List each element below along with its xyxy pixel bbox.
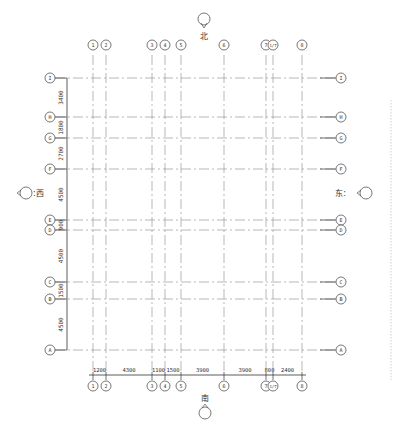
axis-label: 4 (163, 383, 166, 389)
axis-label: F (339, 166, 342, 172)
axis-label: 8 (300, 42, 303, 48)
axis-label: I (48, 75, 51, 81)
axis-bubble-top: 1 (88, 40, 98, 50)
axis-label: 1 (91, 42, 94, 48)
west-arrow-icon: :西 (17, 187, 44, 199)
axis-label: 7 (264, 42, 267, 48)
axis-label: 1 (91, 383, 94, 389)
axis-label: 5 (179, 383, 182, 389)
axis-label: 6 (222, 42, 225, 48)
dimension-value: 4300 (122, 367, 135, 373)
grid-lines (55, 55, 335, 372)
axis-bubble-right: I (320, 73, 346, 83)
axis-bubble-right: C (320, 277, 346, 287)
axis-label: 5 (179, 42, 182, 48)
axis-bubble-right: A (320, 345, 346, 355)
axis-bubble-right: D (320, 225, 346, 235)
grid-drawing-canvas: 3400180027004500900450015004500120043001… (0, 0, 393, 426)
axis-label: G (339, 135, 342, 141)
axis-bubble-top: 3 (147, 40, 157, 50)
axis-label: G (48, 135, 51, 141)
dimension-value: 4500 (57, 248, 64, 263)
axis-label: 1/7 (269, 43, 277, 48)
axis-bubble-left: F (45, 164, 67, 174)
compass-markers: 北 南 :西 东: (17, 13, 372, 419)
axis-bubbles: 112233445566771/71/788IIHHGGFFEEDDCCBBAA (45, 40, 346, 391)
dimension-value: 3900 (196, 367, 209, 373)
axis-label: B (339, 296, 342, 302)
north-arrow-icon: 北 (198, 13, 210, 41)
dimension-lines: 3400180027004500900450015004500120043001… (57, 78, 306, 375)
axis-bubble-right: E (320, 215, 346, 225)
axis-bubble-top: 6 (219, 40, 229, 50)
south-label: 南 (201, 393, 209, 403)
north-label: 北 (200, 32, 208, 41)
axis-grid-svg: 3400180027004500900450015004500120043001… (0, 0, 393, 426)
axis-bubble-top: 2 (101, 40, 111, 50)
axis-bubble-right: G (320, 133, 346, 143)
dimension-value: 1200 (93, 367, 106, 373)
axis-label: A (48, 347, 51, 353)
axis-label: 6 (222, 383, 225, 389)
axis-label: 3 (150, 42, 153, 48)
axis-bubble-top: 5 (176, 40, 186, 50)
axis-label: H (48, 114, 51, 120)
axis-bubble-top: 4 (160, 40, 170, 50)
axis-label: A (339, 347, 342, 353)
dimension-value: 3400 (57, 90, 64, 105)
axis-label: 1/7 (269, 384, 277, 389)
axis-bubble-right: F (320, 164, 346, 174)
axis-bubble-right: B (320, 294, 346, 304)
dimension-value: 1500 (166, 367, 179, 373)
dimension-value: 4500 (57, 317, 64, 332)
axis-bubble-top: 8 (297, 40, 307, 50)
axis-label: 7 (264, 383, 267, 389)
dimension-value: 2400 (281, 367, 294, 373)
axis-label: C (339, 279, 342, 285)
axis-label: E (48, 217, 51, 223)
axis-label: 4 (163, 42, 166, 48)
east-label: 东: (335, 188, 346, 198)
axis-label: H (339, 114, 342, 120)
west-label: :西 (33, 189, 44, 198)
axis-label: I (339, 75, 342, 81)
axis-label: D (48, 227, 51, 233)
dimension-value: 1800 (57, 120, 64, 135)
axis-label: D (339, 227, 342, 233)
south-arrow-icon: 南 (199, 393, 211, 419)
dimension-value: 1500 (57, 283, 64, 298)
axis-label: B (48, 296, 51, 302)
dimension-value: 3900 (238, 367, 251, 373)
dimension-value: 900 (57, 219, 64, 230)
axis-bubble-left: I (45, 73, 67, 83)
axis-bubble-right: H (320, 112, 346, 122)
axis-label: 8 (300, 383, 303, 389)
east-arrow-icon: 东: (335, 187, 372, 199)
axis-label: F (48, 166, 51, 172)
axis-label: E (339, 217, 342, 223)
axis-label: 2 (104, 383, 107, 389)
axis-label: 2 (104, 42, 107, 48)
axis-bubble-left: A (45, 345, 67, 355)
axis-label: C (48, 279, 51, 285)
dimension-value: 2700 (57, 146, 64, 161)
axis-label: 3 (150, 383, 153, 389)
dimension-value: 1100 (152, 367, 165, 373)
axis-bubble-top: 1/7 (268, 40, 278, 50)
dimension-value: 4500 (57, 187, 64, 202)
